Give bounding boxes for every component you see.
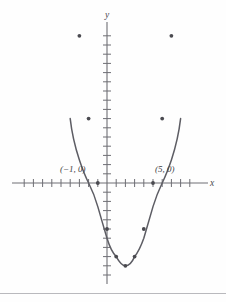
data-point (151, 181, 155, 185)
data-point (114, 255, 118, 259)
data-point (96, 181, 100, 185)
figure-panel: x y (−1, 0) (5, 0) (0, 0, 226, 302)
y-axis-label: y (104, 10, 110, 20)
data-points (78, 34, 174, 268)
data-point (78, 34, 82, 38)
bottom-divider (0, 293, 226, 294)
data-point (133, 255, 137, 259)
data-point (170, 34, 174, 38)
data-point (87, 117, 91, 121)
data-point (124, 264, 128, 268)
parabola-curve (70, 119, 180, 266)
data-point (142, 227, 146, 231)
parabola-plot: x y (−1, 0) (5, 0) (0, 0, 226, 302)
data-point (160, 117, 164, 121)
x-axis-label: x (209, 178, 215, 188)
data-point (105, 227, 109, 231)
right-intercept-label: (5, 0) (155, 164, 175, 174)
left-intercept-label: (−1, 0) (60, 164, 86, 174)
